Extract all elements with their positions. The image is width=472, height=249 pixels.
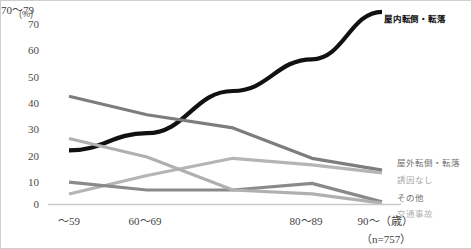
series-label-outdoor-falls: 屋外転倒・転落	[397, 156, 460, 168]
sample-size-note: （n=757）	[361, 230, 411, 246]
y-tick-0: 0	[9, 198, 39, 210]
series-line-4	[69, 139, 382, 204]
series-label-indoor-falls: 屋内転倒・転落	[384, 12, 446, 24]
x-tick-80-89: 80〜89	[275, 212, 337, 228]
x-tick-60-69: 60〜69	[114, 212, 176, 228]
y-tick-70: 70	[9, 18, 39, 30]
y-tick-20: 20	[9, 150, 39, 162]
y-tick-60: 60	[9, 44, 39, 56]
x-tick-70-79: 70〜79	[1, 1, 34, 17]
series-line-3	[69, 182, 382, 202]
y-tick-30: 30	[9, 123, 39, 135]
y-tick-40: 40	[9, 97, 39, 109]
series-line-0	[69, 12, 382, 151]
series-label-traffic: 交通事故	[397, 207, 433, 219]
chart-figure: (%) 70 60 50 40 30 20 10 0 〜59 60〜69 70〜…	[0, 0, 472, 249]
series-label-no-cause: 誘因なし	[397, 173, 433, 185]
y-tick-50: 50	[9, 71, 39, 83]
series-label-other: その他	[397, 191, 424, 203]
x-tick-under59: 〜59	[43, 212, 95, 228]
y-tick-10: 10	[9, 176, 39, 188]
